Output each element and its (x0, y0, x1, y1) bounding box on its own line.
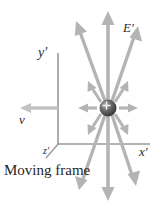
figure-canvas (0, 0, 163, 211)
field-arrow-right (119, 104, 138, 113)
coordinate-axes (46, 53, 150, 158)
field-arrow-up (102, 11, 115, 100)
point-charge-sphere (100, 100, 117, 117)
field-arrow-down (102, 116, 115, 201)
x-axis-label: x′ (139, 145, 148, 158)
velocity-label: v (19, 113, 25, 126)
z-axis-label: z′ (43, 146, 49, 156)
velocity-arrow (20, 103, 58, 113)
figure-caption: Moving frame (4, 163, 90, 178)
moving-frame-figure: y′ x′ z′ v E′ Moving frame (0, 0, 163, 211)
point-charge (100, 100, 117, 117)
field-arrow-left (78, 104, 97, 113)
y-axis-label: y′ (38, 46, 47, 60)
electric-field-label: E′ (123, 21, 134, 34)
